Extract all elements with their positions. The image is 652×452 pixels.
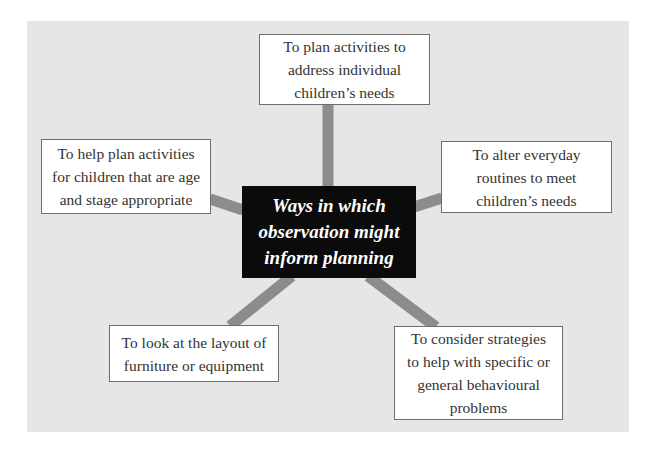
node-lower-left: To look at the layout of furniture or eq… [109,325,279,382]
node-lower-right: To consider strategies to help with spec… [394,326,563,420]
connector-upper-left [210,199,243,210]
node-upper-left-label: To help plan activities for children tha… [52,142,200,211]
node-upper-left: To help plan activities for children tha… [41,139,211,214]
node-top: To plan activities to address individual… [259,34,430,105]
node-lower-left-label: To look at the layout of furniture or eq… [122,331,267,377]
node-upper-right: To alter everyday routines to meet child… [441,141,612,213]
connector-lower-left [230,276,292,326]
center-node-label: Ways in which observation might inform p… [259,193,400,271]
node-lower-right-label: To consider strategies to help with spec… [407,327,550,419]
node-upper-right-label: To alter everyday routines to meet child… [472,143,580,212]
connector-lower-right [368,276,436,327]
node-top-label: To plan activities to address individual… [283,35,405,104]
center-node: Ways in which observation might inform p… [242,186,416,278]
connector-upper-right [414,198,442,207]
